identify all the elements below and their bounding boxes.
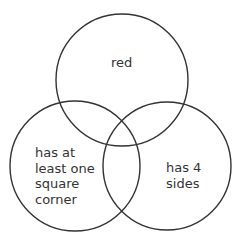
label-line: has 4 <box>166 160 201 176</box>
label-line: corner <box>35 192 95 208</box>
label-line: square <box>35 176 95 192</box>
label-line: sides <box>166 176 201 192</box>
label-line: least one <box>35 161 95 177</box>
set-label-four-sides: has 4 sides <box>166 160 201 191</box>
set-label-red: red <box>111 55 132 71</box>
label-line: has at <box>35 145 95 161</box>
venn-diagram <box>0 0 240 247</box>
set-label-square-corner: has at least one square corner <box>35 145 95 207</box>
set-circle-red <box>56 14 188 146</box>
label-line: red <box>111 55 132 71</box>
